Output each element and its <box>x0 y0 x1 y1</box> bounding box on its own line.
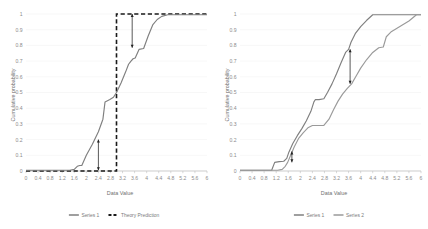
y-tick-label: 0.9 <box>229 27 236 33</box>
left-legend: Series 1Theory Prediction <box>69 213 160 218</box>
y-tick-label: 0.1 <box>229 152 236 158</box>
deviation-arrow-head <box>290 151 293 154</box>
x-tick-label: 3.2 <box>119 175 126 181</box>
x-tick-label: 0.4 <box>35 175 42 181</box>
x-tick-label: 1.2 <box>273 175 280 181</box>
x-tick-label: 5.2 <box>393 175 400 181</box>
deviation-arrow-head <box>349 49 352 52</box>
x-tick-label: 4.4 <box>369 175 376 181</box>
y-tick-label: 0.4 <box>15 105 22 111</box>
x-tick-label: 0 <box>25 175 28 181</box>
chart-panel-right: 00.40.81.21.622.42.83.23.644.44.85.25.66… <box>214 0 428 229</box>
y-tick-label: 0.5 <box>15 89 22 95</box>
x-tick-label: 2 <box>85 175 88 181</box>
x-tick-label: 0.8 <box>47 175 54 181</box>
y-tick-label: 0.8 <box>15 42 22 48</box>
left-y-axis-title: Cumulative probability <box>10 68 16 121</box>
legend-label: Series 1 <box>306 213 324 218</box>
left-x-axis-title: Data Value <box>107 190 133 196</box>
chart-panel-left: 00.40.81.21.622.42.83.23.644.44.85.25.66… <box>0 0 214 229</box>
y-tick-label: 0.2 <box>15 137 22 143</box>
y-tick-label: 0.7 <box>229 58 236 64</box>
two-panel-ecdf-figure: 00.40.81.21.622.42.83.23.644.44.85.25.66… <box>0 0 428 229</box>
y-tick-label: 0.6 <box>15 74 22 80</box>
x-tick-label: 2 <box>299 175 302 181</box>
y-tick-label: 0 <box>20 168 23 174</box>
x-tick-label: 0.8 <box>261 175 268 181</box>
y-tick-label: 0.9 <box>15 27 22 33</box>
y-tick-label: 0.8 <box>229 42 236 48</box>
x-tick-label: 0 <box>239 175 242 181</box>
x-tick-label: 3.6 <box>345 175 352 181</box>
y-tick-label: 0.7 <box>15 58 22 64</box>
y-tick-label: 0.3 <box>15 121 22 127</box>
left-chart-svg: 00.40.81.21.622.42.83.23.644.44.85.25.66… <box>0 0 214 229</box>
right-deviation-arrows <box>290 49 351 162</box>
x-tick-label: 4 <box>359 175 362 181</box>
deviation-arrow-head <box>131 45 134 48</box>
x-tick-label: 5.6 <box>405 175 412 181</box>
y-tick-label: 0.6 <box>229 74 236 80</box>
y-tick-label: 0 <box>234 168 237 174</box>
y-tick-label: 1 <box>234 11 237 17</box>
x-tick-label: 2.4 <box>309 175 316 181</box>
x-tick-label: 3.6 <box>131 175 138 181</box>
x-tick-label: 5.2 <box>179 175 186 181</box>
y-tick-label: 0.1 <box>15 152 22 158</box>
legend-label: Series 2 <box>346 213 364 218</box>
x-tick-label: 0.4 <box>249 175 256 181</box>
right-chart-svg: 00.40.81.21.622.42.83.23.644.44.85.25.66… <box>214 0 428 229</box>
y-tick-label: 0.2 <box>229 137 236 143</box>
x-tick-label: 1.6 <box>285 175 292 181</box>
x-tick-label: 6 <box>206 175 209 181</box>
legend-label: Theory Prediction <box>121 213 160 218</box>
x-tick-label: 4 <box>145 175 148 181</box>
right-legend: Series 1Series 2 <box>294 213 364 218</box>
legend-label: Series 1 <box>81 213 99 218</box>
right-x-axis-title: Data Value <box>321 190 347 196</box>
x-tick-label: 5.6 <box>191 175 198 181</box>
x-tick-label: 6 <box>420 175 423 181</box>
y-tick-label: 0.3 <box>229 121 236 127</box>
x-tick-label: 2.4 <box>95 175 102 181</box>
right-gridlines <box>240 14 421 171</box>
deviation-arrow-head <box>97 140 100 143</box>
y-tick-label: 0.5 <box>229 89 236 95</box>
y-tick-label: 0.4 <box>229 105 236 111</box>
x-tick-label: 2.8 <box>321 175 328 181</box>
x-tick-label: 2.8 <box>107 175 114 181</box>
x-tick-label: 4.8 <box>167 175 174 181</box>
left-deviation-arrows <box>97 14 134 170</box>
x-tick-label: 4.8 <box>381 175 388 181</box>
deviation-arrow-head <box>290 159 293 162</box>
x-tick-label: 1.6 <box>71 175 78 181</box>
y-tick-label: 1 <box>20 11 23 17</box>
right-y-axis-title: Cumulative probability <box>224 68 230 121</box>
deviation-arrow-head <box>349 81 352 84</box>
x-tick-label: 1.2 <box>59 175 66 181</box>
x-tick-label: 4.4 <box>155 175 162 181</box>
deviation-arrow-head <box>97 167 100 170</box>
x-tick-label: 3.2 <box>333 175 340 181</box>
